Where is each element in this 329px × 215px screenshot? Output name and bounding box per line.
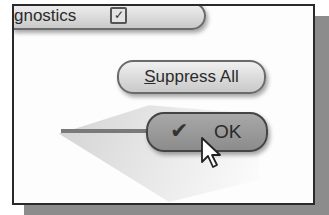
diagnostics-label: gnostics <box>14 6 76 26</box>
diagnostics-checkbox[interactable]: ✓ <box>110 7 127 24</box>
suppress-all-label: Suppress All <box>119 62 264 92</box>
diagnostics-option[interactable]: gnostics ✓ <box>12 4 206 30</box>
suppress-all-button[interactable]: Suppress All <box>117 60 266 94</box>
dialog-crop: gnostics ✓ Suppress All ✔ OK <box>12 4 315 205</box>
callout-line <box>61 129 151 133</box>
mouse-pointer-icon <box>200 136 224 170</box>
checkmark-icon: ✔ <box>170 118 188 144</box>
